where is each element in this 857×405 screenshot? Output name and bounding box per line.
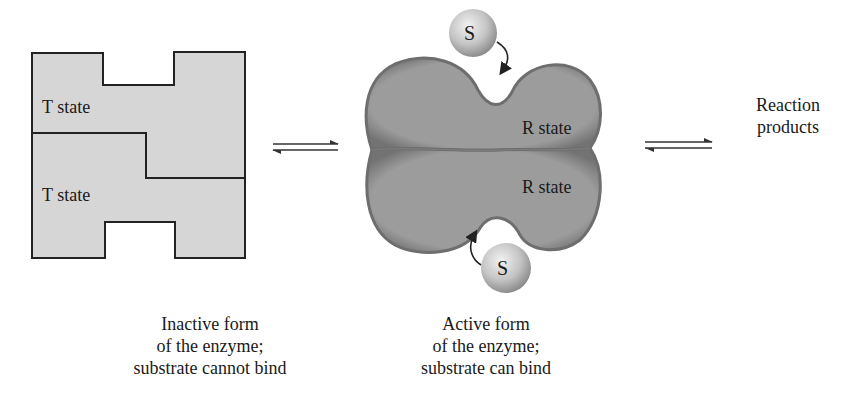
inactive-caption-line-3: substrate cannot bind bbox=[110, 357, 310, 379]
r-state-bottom-subunit bbox=[367, 148, 600, 252]
substrate-top bbox=[449, 9, 508, 70]
active-caption-line-2: of the enzyme; bbox=[386, 335, 586, 357]
r-state-dimer bbox=[366, 58, 600, 252]
substrate-top-label: S bbox=[464, 22, 475, 44]
equilibrium-arrow-1 bbox=[272, 140, 339, 154]
t-state-dimer bbox=[32, 52, 245, 258]
t-state-bottom-label: T state bbox=[42, 184, 90, 206]
inactive-caption-line-2: of the enzyme; bbox=[110, 335, 310, 357]
active-caption-line-1: Active form bbox=[386, 313, 586, 335]
inactive-caption: Inactive form of the enzyme; substrate c… bbox=[110, 313, 310, 379]
r-state-top-label: R state bbox=[522, 117, 572, 139]
products-line-2: products bbox=[738, 116, 838, 138]
active-caption: Active form of the enzyme; substrate can… bbox=[386, 313, 586, 379]
active-caption-line-3: substrate can bind bbox=[386, 357, 586, 379]
binding-arrow-top bbox=[497, 42, 508, 70]
products-line-1: Reaction bbox=[738, 94, 838, 116]
substrate-bottom-label: S bbox=[497, 257, 508, 279]
binding-arrow-bottom bbox=[471, 235, 481, 265]
equilibrium-arrow-2 bbox=[645, 138, 713, 152]
inactive-caption-line-1: Inactive form bbox=[110, 313, 310, 335]
reaction-products-label: Reaction products bbox=[738, 94, 838, 138]
t-state-top-label: T state bbox=[42, 96, 90, 118]
r-state-bottom-label: R state bbox=[522, 176, 572, 198]
